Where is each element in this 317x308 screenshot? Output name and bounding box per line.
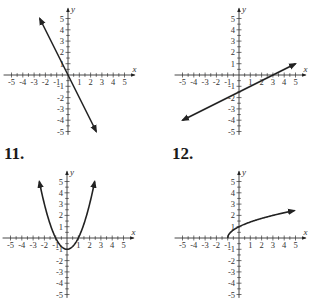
x-tick-label: -5	[7, 240, 14, 250]
x-tick-label: 5	[121, 240, 125, 250]
y-tick-label: -3	[57, 104, 64, 114]
x-tick-label: 2	[259, 240, 263, 250]
x-tick-label: 5	[293, 240, 297, 250]
graph-2: -5-5-4-4-3-3-2-2-1-11122334455xy	[175, 4, 308, 137]
y-tick-label: 5	[231, 177, 235, 187]
y-tick-label: -2	[56, 256, 63, 266]
x-tick-label: 1	[248, 240, 252, 250]
y-tick-label: 2	[60, 47, 64, 57]
x-axis-label: x	[131, 64, 136, 74]
y-tick-label: -1	[228, 81, 235, 91]
y-tick-label: -1	[56, 244, 63, 254]
y-tick-label: 1	[231, 59, 235, 69]
y-tick-label: 2	[59, 210, 63, 220]
y-axis-label: y	[241, 4, 246, 14]
y-tick-label: -3	[228, 104, 235, 114]
y-tick-label: -4	[228, 278, 236, 288]
x-tick-label: 5	[293, 77, 297, 87]
y-tick-label: -5	[228, 290, 235, 300]
y-tick-label: -2	[228, 256, 235, 266]
graph-3: -5-5-4-4-3-3-2-2-1-11122334455xy	[3, 167, 136, 300]
x-tick-label: -2	[213, 240, 220, 250]
y-tick-label: -4	[228, 115, 236, 125]
y-tick-label: -5	[56, 290, 63, 300]
y-tick-label: 5	[59, 177, 63, 187]
x-tick-label: -3	[202, 240, 209, 250]
y-tick-label: 4	[231, 25, 236, 35]
x-tick-label: 2	[87, 240, 91, 250]
x-tick-label: -4	[190, 77, 198, 87]
x-tick-label: -3	[30, 240, 37, 250]
y-tick-label: 2	[231, 210, 235, 220]
y-axis-label: y	[70, 4, 75, 14]
y-tick-label: 4	[59, 188, 64, 198]
x-tick-label: -4	[19, 77, 27, 87]
x-tick-label: 4	[110, 240, 115, 250]
x-axis-label: x	[302, 227, 307, 237]
x-tick-label: 3	[271, 77, 275, 87]
x-tick-label: 3	[271, 240, 275, 250]
x-tick-label: -5	[179, 77, 186, 87]
x-tick-label: 2	[88, 77, 92, 87]
x-tick-label: 4	[111, 77, 116, 87]
x-tick-label: 3	[100, 77, 104, 87]
y-tick-label: -1	[228, 244, 235, 254]
y-tick-label: -4	[56, 278, 64, 288]
graph-1: -5-5-4-4-3-3-2-2-1-11122334455xy	[4, 4, 137, 137]
y-tick-label: 3	[231, 199, 235, 209]
y-tick-label: -3	[228, 267, 235, 277]
y-tick-label: -1	[57, 81, 64, 91]
graphs-canvas: -5-5-4-4-3-3-2-2-1-11122334455xy -5-5-4-…	[0, 0, 317, 308]
x-tick-label: -4	[190, 240, 198, 250]
y-tick-label: 5	[231, 14, 235, 24]
y-tick-label: -4	[57, 115, 65, 125]
y-tick-label: -5	[57, 127, 64, 137]
x-tick-label: -3	[202, 77, 209, 87]
x-tick-label: 4	[282, 77, 287, 87]
x-tick-label: 1	[77, 77, 81, 87]
x-tick-label: -5	[179, 240, 186, 250]
y-tick-label: 2	[231, 47, 235, 57]
y-tick-label: -2	[57, 93, 64, 103]
y-tick-label: 5	[60, 14, 64, 24]
x-tick-label: -4	[18, 240, 26, 250]
x-tick-label: -2	[42, 77, 49, 87]
x-axis-label: x	[130, 227, 135, 237]
y-tick-label: 3	[59, 199, 63, 209]
y-axis-label: y	[69, 167, 74, 177]
x-tick-label: -5	[8, 77, 15, 87]
y-tick-label: -5	[228, 127, 235, 137]
x-tick-label: -3	[31, 77, 38, 87]
y-tick-label: 4	[60, 25, 65, 35]
x-tick-label: 4	[282, 240, 287, 250]
x-tick-label: -2	[213, 77, 220, 87]
graph-4: -5-5-4-4-3-3-2-2-1-11122334455xy	[175, 167, 308, 300]
plotted-curve	[228, 211, 295, 238]
y-tick-label: 1	[59, 222, 63, 232]
x-tick-label: 3	[99, 240, 103, 250]
x-tick-label: 5	[122, 77, 126, 87]
y-axis-label: y	[241, 167, 246, 177]
y-tick-label: 3	[231, 36, 235, 46]
y-tick-label: -3	[56, 267, 63, 277]
x-axis-label: x	[302, 64, 307, 74]
x-tick-label: -2	[41, 240, 48, 250]
y-tick-label: 3	[60, 36, 64, 46]
y-tick-label: 4	[231, 188, 236, 198]
